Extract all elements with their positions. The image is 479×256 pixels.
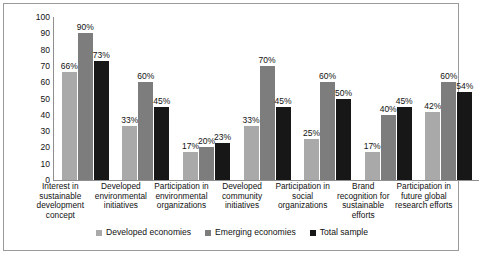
bar-value-label: 90% (77, 23, 94, 32)
y-axis-tick: 40 (41, 111, 50, 120)
bar-column: 54% (457, 17, 472, 180)
bar-value-label: 70% (259, 56, 276, 65)
y-axis-tick: 20 (41, 143, 50, 152)
chart-legend: Developed economiesEmerging economiesTot… (4, 228, 460, 237)
bar[interactable] (276, 107, 291, 180)
legend-label: Total sample (320, 228, 368, 237)
bar-value-label: 66% (61, 62, 78, 71)
bar[interactable] (78, 33, 93, 180)
bar[interactable] (122, 126, 137, 180)
bar[interactable] (199, 147, 214, 180)
bar-column: 40% (381, 17, 396, 180)
bar-column: 60% (441, 17, 456, 180)
bar-groups: 66%90%73%33%60%45%17%20%23%33%70%45%25%6… (55, 17, 479, 180)
bar-group: 33%70%45% (237, 17, 298, 180)
x-axis-label: Brand recognition for sustainable effort… (333, 182, 394, 224)
legend-item[interactable]: Developed economies (96, 228, 191, 237)
bar-column: 33% (244, 17, 259, 180)
y-axis-tick: 70 (41, 62, 50, 71)
bar[interactable] (260, 66, 275, 180)
y-axis-tick: 50 (41, 95, 50, 104)
x-axis-label: Developed community initiatives (212, 182, 273, 224)
bar-column: 17% (183, 17, 198, 180)
bar-value-label: 45% (396, 97, 413, 106)
y-axis-line (53, 17, 54, 181)
bar[interactable] (365, 152, 380, 180)
bar[interactable] (336, 99, 351, 181)
bar-column: 20% (199, 17, 214, 180)
bar[interactable] (215, 143, 230, 180)
bar[interactable] (94, 61, 109, 180)
bar-value-label: 45% (275, 97, 292, 106)
bar-group: 25%60%50% (297, 17, 358, 180)
bar[interactable] (457, 92, 472, 180)
bar-column: 33% (122, 17, 137, 180)
bar-column: 70% (260, 17, 275, 180)
y-axis-tick: 10 (41, 160, 50, 169)
bar[interactable] (304, 139, 319, 180)
x-axis-label: Interest in sustainable development conc… (30, 182, 91, 224)
bar-value-label: 54% (456, 82, 473, 91)
bar-value-label: 17% (182, 142, 199, 151)
chart-frame: 1009080706050403020100 66%90%73%33%60%45… (3, 3, 459, 251)
bar-group: 17%40%45% (358, 17, 419, 180)
bar[interactable] (320, 82, 335, 180)
y-axis: 1009080706050403020100 (29, 17, 53, 180)
bar-value-label: 50% (335, 89, 352, 98)
y-axis-tick: 30 (41, 127, 50, 136)
bar-column: 45% (154, 17, 169, 180)
x-axis-label: Participation in social organizations (272, 182, 333, 224)
bar[interactable] (425, 112, 440, 180)
bar[interactable] (183, 152, 198, 180)
y-axis-tick: 80 (41, 46, 50, 55)
bar-column: 45% (276, 17, 291, 180)
bar-value-label: 33% (121, 116, 138, 125)
bar[interactable] (381, 115, 396, 180)
x-axis-labels: Interest in sustainable development conc… (30, 182, 454, 224)
bar[interactable] (62, 72, 77, 180)
legend-label: Developed economies (106, 228, 191, 237)
y-axis-tick: 60 (41, 78, 50, 87)
bar-value-label: 23% (214, 133, 231, 142)
bar-column: 60% (320, 17, 335, 180)
bar-value-label: 60% (137, 72, 154, 81)
bar-column: 50% (336, 17, 351, 180)
bar-value-label: 73% (93, 51, 110, 60)
bar-value-label: 17% (364, 142, 381, 151)
bar-value-label: 25% (303, 129, 320, 138)
bar[interactable] (138, 82, 153, 180)
bar-column: 17% (365, 17, 380, 180)
bar-column: 45% (397, 17, 412, 180)
bar[interactable] (244, 126, 259, 180)
bar-value-label: 60% (319, 72, 336, 81)
bar-group: 66%90%73% (55, 17, 116, 180)
bar-column: 66% (62, 17, 77, 180)
x-axis-label: Participation in environmental organizat… (151, 182, 212, 224)
x-axis-label: Participation in future global research … (393, 182, 454, 224)
legend-swatch-icon (205, 230, 211, 236)
bar-column: 90% (78, 17, 93, 180)
bar-value-label: 45% (153, 97, 170, 106)
bar-group: 42%60%54% (418, 17, 479, 180)
bar-value-label: 60% (440, 72, 457, 81)
bar-value-label: 20% (198, 137, 215, 146)
bar[interactable] (154, 107, 169, 180)
bar-column: 25% (304, 17, 319, 180)
y-axis-tick: 90 (41, 29, 50, 38)
bar-column: 73% (94, 17, 109, 180)
bar-value-label: 40% (380, 105, 397, 114)
legend-label: Emerging economies (215, 228, 296, 237)
bar-value-label: 33% (243, 116, 260, 125)
bar[interactable] (441, 82, 456, 180)
legend-swatch-icon (96, 230, 102, 236)
legend-item[interactable]: Emerging economies (205, 228, 296, 237)
bar-group: 33%60%45% (116, 17, 177, 180)
legend-swatch-icon (310, 230, 316, 236)
plot-area: 1009080706050403020100 66%90%73%33%60%45… (29, 11, 454, 179)
bar-value-label: 42% (424, 102, 441, 111)
legend-item[interactable]: Total sample (310, 228, 368, 237)
bar[interactable] (397, 107, 412, 180)
x-axis-label: Developed environmental initiatives (91, 182, 152, 224)
y-axis-tick: 100 (36, 13, 50, 22)
bar-column: 23% (215, 17, 230, 180)
